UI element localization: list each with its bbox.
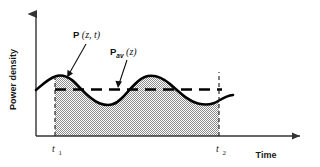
- svg-text:1: 1: [59, 149, 63, 157]
- x-axis-arrowhead: [292, 132, 300, 139]
- x-axis-label: Time: [256, 150, 277, 160]
- instantaneous-power-label: P (z, t): [73, 29, 101, 41]
- average-power-label: Pav (z): [110, 46, 137, 59]
- svg-text:2: 2: [223, 149, 227, 157]
- x-tick-label-t1: t 1: [52, 143, 63, 157]
- shaded-area-under-curve: [55, 76, 219, 136]
- x-tick-label-t2: t 2: [216, 143, 227, 157]
- svg-text:t: t: [52, 143, 55, 154]
- svg-text:t: t: [216, 143, 219, 154]
- svg-text:P (z, t): P (z, t): [73, 29, 101, 41]
- average-power-leader: [115, 60, 127, 88]
- power-density-vs-time-chart: Power density Time t 1 t 2 P (z, t) Pav …: [0, 0, 320, 167]
- instantaneous-power-leader: [67, 44, 86, 78]
- y-axis-label: Power density: [8, 49, 18, 110]
- svg-text:Pav (z): Pav (z): [110, 46, 137, 59]
